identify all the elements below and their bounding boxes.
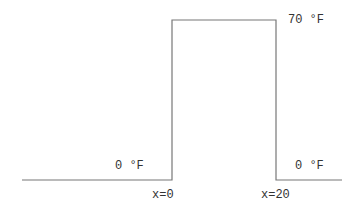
label-x20: x=20 — [261, 188, 290, 202]
label-70F: 70 °F — [288, 13, 324, 27]
temperature-profile-lines — [0, 0, 357, 212]
label-left-0F: 0 °F — [115, 159, 144, 173]
step-profile-line — [22, 20, 342, 180]
label-x0: x=0 — [152, 188, 174, 202]
label-right-0F: 0 °F — [295, 159, 324, 173]
